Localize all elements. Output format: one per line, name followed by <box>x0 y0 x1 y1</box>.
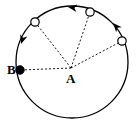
point-top-right <box>86 8 94 16</box>
geometry-diagram-svg <box>0 0 136 126</box>
diagram-canvas: A B <box>0 0 136 126</box>
radius-A-to-top-right <box>71 12 90 68</box>
radius-A-to-B <box>20 68 71 70</box>
point-top-left <box>31 18 39 26</box>
arrow-top-arc <box>67 3 77 12</box>
point-label-B: B <box>7 63 16 76</box>
point-right <box>118 37 126 45</box>
point-B <box>16 66 24 74</box>
radius-A-to-top-left <box>35 22 71 68</box>
point-label-A: A <box>66 72 75 85</box>
point-markers-group <box>16 8 126 74</box>
